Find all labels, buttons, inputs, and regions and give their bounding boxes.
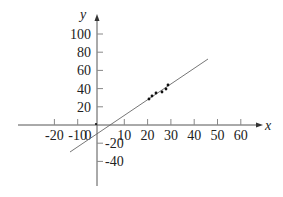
y-tick-label: -20 — [105, 136, 124, 151]
origin-dot — [95, 123, 97, 125]
data-point — [165, 88, 168, 91]
y-tick-label: 20 — [77, 100, 91, 115]
data-point — [155, 92, 158, 95]
x-tick-label: 40 — [187, 128, 201, 143]
y-tick-label: 40 — [77, 82, 91, 97]
scatter-chart: -20-100102030405060-40-2020406080100 x y — [0, 0, 283, 197]
x-tick-label: -20 — [45, 128, 64, 143]
data-point — [161, 91, 164, 94]
x-tick-label: 30 — [164, 128, 178, 143]
y-tick-label: 80 — [77, 45, 91, 60]
data-point — [151, 95, 154, 98]
x-axis-arrow-icon — [256, 123, 263, 128]
data-points — [95, 84, 170, 126]
y-tick-label: 60 — [77, 63, 91, 78]
axes — [18, 14, 263, 186]
data-point — [148, 98, 151, 101]
y-axis-label: y — [78, 7, 87, 22]
x-tick-label: 60 — [234, 128, 248, 143]
y-tick-label: 100 — [70, 27, 91, 42]
x-tick-label: 50 — [211, 128, 225, 143]
y-tick-label: -40 — [105, 154, 124, 169]
x-tick-label: 0 — [85, 128, 92, 143]
x-tick-label: 20 — [141, 128, 155, 143]
x-axis-label: x — [264, 118, 272, 133]
data-point — [167, 84, 170, 87]
y-axis-arrow-icon — [95, 14, 100, 21]
